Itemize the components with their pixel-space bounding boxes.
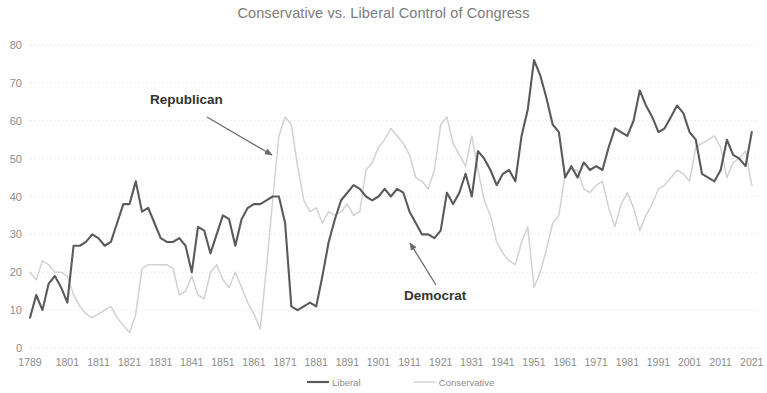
series-line-conservative	[30, 117, 752, 333]
y-axis-tick-labels: 01020304050607080	[10, 39, 22, 354]
x-axis-tick-label: 1931	[460, 356, 484, 368]
x-axis-tick-label: 1941	[491, 356, 515, 368]
x-axis-tick-label: 1861	[242, 356, 266, 368]
x-axis-tick-label: 2001	[678, 356, 702, 368]
y-axis-tick-label: 0	[16, 342, 22, 354]
chart-annotation-label-republican: Republican	[150, 92, 223, 107]
x-axis-tick-label: 1891	[336, 356, 360, 368]
x-axis-tick-label: 1881	[305, 356, 329, 368]
x-axis-tick-label: 2021	[740, 356, 764, 368]
x-axis-tick-label: 1851	[211, 356, 235, 368]
chart-container: Conservative vs. Liberal Control of Cong…	[0, 0, 767, 393]
x-axis-tick-label: 1981	[616, 356, 640, 368]
x-axis-tick-label: 1831	[149, 356, 173, 368]
legend-label-conservative: Conservative	[439, 377, 494, 388]
x-axis-tick-label: 1901	[367, 356, 391, 368]
x-axis-tick-label: 1911	[398, 356, 421, 368]
x-axis-tick-labels: 1789180118111821183118411851186118711881…	[18, 356, 763, 368]
chart-annotation-label-democrat: Democrat	[404, 288, 467, 303]
y-axis-tick-label: 30	[10, 228, 22, 240]
annotations-group: RepublicanDemocrat	[150, 92, 467, 303]
chart-legend: LiberalConservative	[307, 377, 494, 388]
chart-plot-area: 01020304050607080 1789180118111821183118…	[0, 0, 767, 393]
x-axis-tick-label: 1789	[18, 356, 42, 368]
series-line-liberal	[30, 60, 752, 318]
x-axis-tick-label: 1821	[118, 356, 142, 368]
y-axis-tick-label: 40	[10, 191, 22, 203]
x-axis-tick-label: 1811	[87, 356, 110, 368]
x-axis-tick-label: 1801	[56, 356, 80, 368]
y-axis-tick-label: 80	[10, 39, 22, 51]
x-axis-tick-label: 2011	[709, 356, 732, 368]
y-axis-tick-label: 60	[10, 115, 22, 127]
y-axis-tick-label: 50	[10, 153, 22, 165]
x-axis-tick-label: 1951	[522, 356, 546, 368]
x-axis-tick-label: 1921	[429, 356, 453, 368]
y-axis-tick-label: 20	[10, 266, 22, 278]
y-axis-tick-label: 10	[10, 304, 22, 316]
chart-annotation-arrow-republican	[207, 117, 272, 155]
legend-label-liberal: Liberal	[332, 377, 361, 388]
x-axis-tick-label: 1841	[180, 356, 204, 368]
x-axis-tick-label: 1871	[273, 356, 297, 368]
x-axis-tick-label: 1961	[553, 356, 577, 368]
y-axis-tick-label: 70	[10, 77, 22, 89]
x-axis-tick-label: 1991	[647, 356, 671, 368]
chart-annotation-arrow-democrat	[410, 243, 436, 285]
x-axis-tick-label: 1971	[585, 356, 609, 368]
